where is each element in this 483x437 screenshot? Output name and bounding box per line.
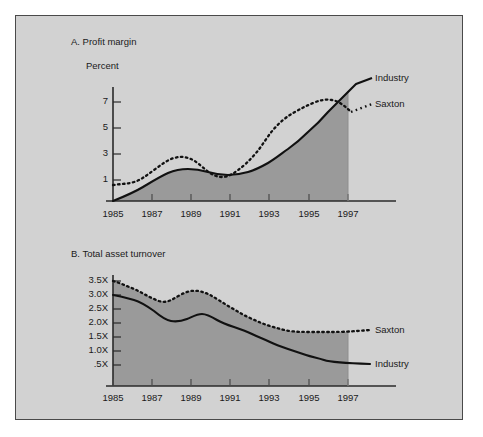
panel-b-area-fill <box>113 281 348 386</box>
panel-b-plot <box>106 270 396 405</box>
panel-b-ytick-0: 3.5X <box>66 274 108 285</box>
panel-a-xtick-1: 1987 <box>130 208 174 219</box>
panel-b-legend-industry: Industry <box>375 358 409 369</box>
panel-a-legend-industry: Industry <box>375 72 409 83</box>
panel-b-ytick-3: 2.0X <box>66 316 108 327</box>
panel-a-legend-leader-industry <box>356 78 372 84</box>
panel-a-xtick-3: 1991 <box>208 208 252 219</box>
panel-a-xtick-5: 1995 <box>287 208 331 219</box>
panel-b-xtick-1: 1987 <box>130 392 174 403</box>
figure-frame: A. Profit margin Percent 7 5 3 1 <box>15 15 463 420</box>
panel-b-ytick-4: 1.5X <box>66 330 108 341</box>
chart-panel-profit-margin: A. Profit margin Percent 7 5 3 1 <box>16 16 464 228</box>
panel-b-legend-saxton: Saxton <box>375 324 405 335</box>
panel-b-xtick-2: 1989 <box>169 392 213 403</box>
panel-a-title: A. Profit margin <box>71 36 136 47</box>
panel-b-title: B. Total asset turnover <box>71 248 165 259</box>
panel-b-xtick-5: 1995 <box>287 392 331 403</box>
panel-b-xtick-0: 1985 <box>91 392 135 403</box>
panel-a-xtick-4: 1993 <box>247 208 291 219</box>
panel-a-plot <box>106 71 396 216</box>
panel-b-ytick-2: 2.5X <box>66 302 108 313</box>
panel-b-xtick-3: 1991 <box>208 392 252 403</box>
panel-a-axis-name: Percent <box>86 60 119 71</box>
panel-a-legend-saxton: Saxton <box>375 98 405 109</box>
panel-a-ytick-1: 5 <box>78 121 108 132</box>
panel-a-ytick-2: 3 <box>78 147 108 158</box>
panel-a-xtick-6: 1997 <box>326 208 370 219</box>
panel-b-ytick-1: 3.0X <box>66 288 108 299</box>
panel-a-legend-leader-saxton <box>351 104 372 112</box>
panel-a-ytick-0: 7 <box>78 95 108 106</box>
panel-b-xtick-6: 1997 <box>326 392 370 403</box>
panel-a-ytick-3: 1 <box>78 173 108 184</box>
chart-panel-total-asset-turnover: B. Total asset turnover 3.5X 3.0X 2.5X 2… <box>16 228 464 421</box>
panel-b-ytick-6: .5X <box>66 358 108 369</box>
panel-a-xtick-0: 1985 <box>91 208 135 219</box>
panel-a-xtick-2: 1989 <box>169 208 213 219</box>
panel-b-ytick-5: 1.0X <box>66 344 108 355</box>
panel-b-xtick-4: 1993 <box>247 392 291 403</box>
